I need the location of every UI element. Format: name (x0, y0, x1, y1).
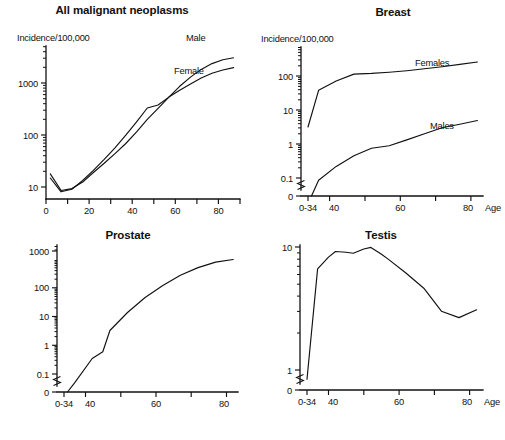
testis-plot: Testis 0 1 10 (253, 220, 505, 440)
y-axis-label: Incidence/100,000 (17, 33, 90, 43)
series-label-male: Male (186, 33, 205, 43)
x-axis-label: Age (485, 203, 501, 213)
prostate-plot: Prostate (0, 220, 253, 440)
series-label-males: Males (430, 121, 454, 131)
y-tick-label-100: 100 (34, 283, 49, 293)
y-tick-label-10: 10 (28, 183, 38, 193)
x-axis-ticks (64, 392, 227, 397)
x-tick-label-40: 40 (127, 206, 137, 216)
series-line-female (50, 68, 233, 192)
y-tick-label-10: 10 (283, 106, 293, 116)
y-axis-major-ticks (295, 247, 300, 390)
axis-break-icon (297, 375, 304, 384)
x-tick-label-80: 80 (219, 399, 229, 409)
x-tick-label-80: 80 (213, 206, 223, 216)
x-tick-label-60: 60 (395, 203, 405, 213)
axis-break-icon (54, 377, 61, 386)
y-tick-label-1000: 1000 (18, 79, 38, 89)
y-tick-label-100: 100 (278, 72, 293, 82)
page-title: Prostate (105, 229, 150, 241)
series-line-males (312, 121, 478, 197)
x-tick-label-60: 60 (151, 399, 161, 409)
series-label-female: Female (174, 66, 204, 76)
x-tick-label-40: 40 (328, 397, 338, 407)
y-tick-label-1: 1 (287, 366, 292, 376)
page-title: Testis (365, 229, 397, 241)
x-tick-label-40: 40 (329, 203, 339, 213)
y-tick-label-10: 10 (282, 243, 292, 253)
x-axis-label: Age (484, 397, 500, 407)
series-line-prostate (68, 260, 234, 393)
x-tick-label-60: 60 (170, 206, 180, 216)
y-tick-label-0-1: 0.1 (37, 370, 49, 380)
page-title: Breast (375, 6, 410, 18)
y-tick-label-1000: 1000 (29, 247, 49, 257)
x-tick-label-0-34: 0-34 (298, 397, 316, 407)
x-axis-ticks (307, 390, 470, 395)
y-axis-label: Incidence/100,000 (261, 34, 334, 44)
cancer-incidence-figure: All malignant neoplasms Incidence/100,00… (0, 0, 505, 440)
x-tick-label-40: 40 (85, 399, 95, 409)
x-tick-label-60: 60 (394, 397, 404, 407)
x-tick-label-80: 80 (463, 203, 473, 213)
x-axis-ticks (46, 199, 240, 204)
y-tick-label-0: 0 (44, 388, 49, 398)
y-tick-label-0-1: 0.1 (281, 174, 293, 184)
chart-panel-prostate: Prostate (0, 220, 253, 440)
y-tick-label-1: 1 (44, 341, 49, 351)
series-line-females (308, 62, 477, 127)
y-tick-label-1: 1 (288, 140, 293, 150)
series-line-testis (307, 247, 477, 379)
chart-panel-breast: Breast Incidence/100,000 (253, 0, 505, 220)
x-axis-ticks (308, 196, 471, 201)
page-title: All malignant neoplasms (55, 4, 188, 16)
x-tick-label-20: 20 (84, 206, 94, 216)
x-tick-label-0-34: 0-34 (55, 399, 73, 409)
chart-panel-testis: Testis 0 1 10 (253, 220, 505, 440)
series-label-females: Females (415, 58, 450, 68)
all-malignant-neoplasms-plot: All malignant neoplasms Incidence/100,00… (0, 0, 253, 220)
chart-panel-all-malignant-neoplasms: All malignant neoplasms Incidence/100,00… (0, 0, 253, 220)
y-tick-label-100: 100 (23, 131, 38, 141)
series-line-male (50, 58, 233, 191)
x-tick-label-0-34: 0-34 (299, 203, 317, 213)
y-tick-label-0: 0 (288, 192, 293, 202)
breast-plot: Breast Incidence/100,000 (253, 0, 505, 220)
axis-break-icon (298, 181, 305, 190)
x-tick-label-80: 80 (462, 397, 472, 407)
y-tick-label-10: 10 (39, 312, 49, 322)
y-tick-label-0: 0 (287, 386, 292, 396)
x-tick-label-0: 0 (44, 206, 49, 216)
